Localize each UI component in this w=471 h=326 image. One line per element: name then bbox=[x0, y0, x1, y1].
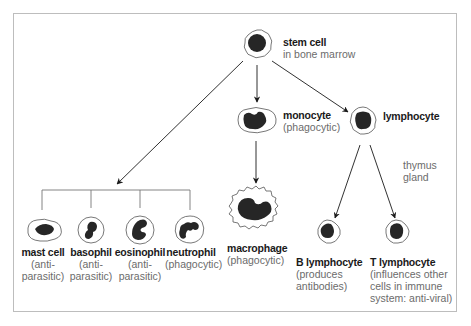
mast-cell-name: mast cell bbox=[18, 246, 68, 258]
basophil-desc1: (anti- bbox=[67, 258, 115, 270]
basophil-label: basophil (anti- parasitic) bbox=[67, 246, 115, 282]
eosinophil-desc1: (anti- bbox=[113, 258, 167, 270]
eosinophil-icon bbox=[126, 216, 154, 244]
arrow-stem-to-lymphocyte bbox=[272, 61, 348, 112]
t-lymphocyte-desc2: cells in immune bbox=[370, 280, 452, 292]
monocyte-desc: (phagocytic) bbox=[283, 121, 340, 133]
lymphocyte-name: lymphocyte bbox=[383, 110, 439, 122]
stem-cell-desc: in bone marrow bbox=[283, 48, 355, 60]
macrophage-label: macrophage (phagocytic) bbox=[227, 242, 287, 266]
lymphocyte-label: lymphocyte bbox=[383, 110, 439, 122]
mast-cell-desc2: parasitic) bbox=[18, 270, 68, 282]
stem-cell-icon bbox=[244, 30, 272, 58]
arrow-lymphocyte-to-b bbox=[335, 145, 360, 218]
mast-cell-label: mast cell (anti- parasitic) bbox=[18, 246, 68, 282]
neutrophil-label: neutrophil (phagocytic) bbox=[165, 246, 217, 270]
basophil-name: basophil bbox=[67, 246, 115, 258]
eosinophil-name: eosinophil bbox=[113, 246, 167, 258]
stem-cell-name: stem cell bbox=[283, 36, 355, 48]
macrophage-icon bbox=[229, 186, 278, 229]
b-lymphocyte-label: B lymphocyte (produces antibodies) bbox=[296, 256, 362, 292]
thymus-line1: thymus bbox=[403, 159, 437, 171]
b-lymphocyte-desc1: (produces bbox=[296, 268, 362, 280]
monocyte-name: monocyte bbox=[283, 109, 340, 121]
t-lymphocyte-desc3: system: anti-viral) bbox=[370, 292, 452, 304]
mast-cell-icon bbox=[28, 219, 61, 241]
basophil-icon bbox=[78, 217, 104, 243]
neutrophil-desc1: (phagocytic) bbox=[165, 258, 217, 270]
lymphocyte-icon bbox=[350, 107, 376, 134]
monocyte-icon bbox=[238, 108, 276, 133]
basophil-desc2: parasitic) bbox=[67, 270, 115, 282]
monocyte-label: monocyte (phagocytic) bbox=[283, 109, 340, 133]
t-lymphocyte-icon bbox=[386, 220, 409, 243]
arrow-stem-to-granulocytes bbox=[117, 61, 243, 184]
macrophage-name: macrophage bbox=[227, 242, 287, 254]
mast-cell-desc1: (anti- bbox=[18, 258, 68, 270]
thymus-gland-annotation: thymus gland bbox=[403, 159, 437, 183]
eosinophil-desc2: parasitic) bbox=[113, 270, 167, 282]
neutrophil-name: neutrophil bbox=[165, 246, 217, 258]
t-lymphocyte-label: T lymphocyte (influences other cells in … bbox=[370, 256, 452, 304]
b-lymphocyte-name: B lymphocyte bbox=[296, 256, 362, 268]
b-lymphocyte-desc2: antibodies) bbox=[296, 280, 362, 292]
granulocyte-bracket bbox=[42, 190, 190, 210]
neutrophil-icon bbox=[175, 216, 204, 243]
macrophage-desc: (phagocytic) bbox=[227, 254, 287, 266]
stem-cell-label: stem cell in bone marrow bbox=[283, 36, 355, 60]
eosinophil-label: eosinophil (anti- parasitic) bbox=[113, 246, 167, 282]
b-lymphocyte-icon bbox=[318, 220, 341, 243]
t-lymphocyte-name: T lymphocyte bbox=[370, 256, 452, 268]
t-lymphocyte-desc1: (influences other bbox=[370, 268, 452, 280]
thymus-line2: gland bbox=[403, 171, 437, 183]
arrow-lymphocyte-to-t bbox=[370, 145, 395, 218]
